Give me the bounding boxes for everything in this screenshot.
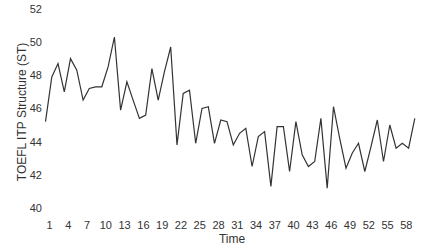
y-axis-label: TOEFL ITP Structure (ST) — [15, 43, 29, 181]
x-tick-label: 13 — [118, 219, 130, 231]
y-tick-label: 50 — [30, 36, 42, 48]
y-tick-label: 40 — [30, 202, 42, 214]
y-tick-label: 44 — [30, 136, 42, 148]
y-tick-label: 52 — [30, 3, 42, 15]
x-tick-label: 7 — [84, 219, 90, 231]
y-axis-ticks: 40424446485052 — [30, 3, 42, 214]
x-tick-label: 55 — [381, 219, 393, 231]
x-tick-label: 43 — [306, 219, 318, 231]
y-tick-label: 42 — [30, 169, 42, 181]
x-tick-label: 58 — [400, 219, 412, 231]
y-tick-label: 46 — [30, 102, 42, 114]
x-tick-label: 40 — [288, 219, 300, 231]
x-tick-label: 46 — [325, 219, 337, 231]
y-tick-label: 48 — [30, 69, 42, 81]
x-tick-label: 37 — [269, 219, 281, 231]
x-axis-label: Time — [219, 232, 246, 246]
x-tick-label: 25 — [194, 219, 206, 231]
x-tick-label: 10 — [100, 219, 112, 231]
x-tick-label: 19 — [156, 219, 168, 231]
x-tick-label: 4 — [65, 219, 71, 231]
line-chart: 40424446485052 1471013161922252831343740… — [0, 0, 430, 251]
data-series-line — [46, 37, 415, 188]
x-axis-ticks: 1471013161922252831343740434649525558 — [46, 219, 412, 231]
x-tick-label: 22 — [175, 219, 187, 231]
x-tick-label: 31 — [231, 219, 243, 231]
chart-canvas: 40424446485052 1471013161922252831343740… — [0, 0, 430, 251]
x-tick-label: 49 — [344, 219, 356, 231]
x-tick-label: 16 — [137, 219, 149, 231]
x-tick-label: 1 — [46, 219, 52, 231]
x-tick-label: 28 — [212, 219, 224, 231]
x-tick-label: 34 — [250, 219, 262, 231]
x-tick-label: 52 — [363, 219, 375, 231]
